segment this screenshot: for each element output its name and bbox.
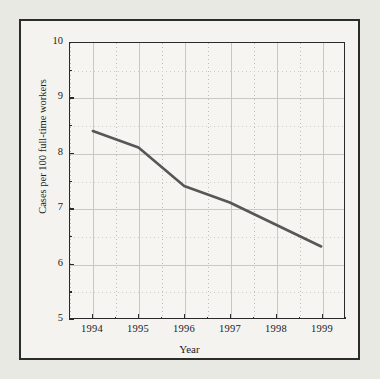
y-tick-major [69,42,74,43]
x-tick-label: 1998 [256,323,296,334]
series-polyline [93,131,321,247]
x-tick-major [184,314,185,319]
x-tick-major [276,314,277,319]
y-tick-major [69,264,74,265]
x-tick-minor [253,317,254,320]
y-tick-minor [69,70,72,71]
y-tick-minor [69,236,72,237]
x-tick-label: 1997 [210,323,250,334]
x-tick-label: 1996 [164,323,204,334]
x-tick-label: 1999 [302,323,342,334]
y-tick-minor [69,125,72,126]
x-axis-title: Year [21,343,358,355]
y-tick-label: 6 [39,257,63,268]
plot-area [69,42,345,319]
y-tick-minor [69,181,72,182]
y-tick-label: 5 [39,312,63,323]
x-tick-label: 1995 [118,323,158,334]
chart-figure: 199419951996199719981999 5678910 Year Ca… [19,19,360,360]
x-tick-minor [115,317,116,320]
y-tick-major [69,208,74,209]
x-tick-minor [299,317,300,320]
line-series [70,43,344,318]
x-tick-minor [345,317,346,320]
y-tick-major [69,153,74,154]
x-tick-major [322,314,323,319]
y-tick-major [69,319,74,320]
y-axis-title: Cases per 100 full-time workers [37,47,48,247]
x-tick-major [92,314,93,319]
x-tick-minor [207,317,208,320]
y-tick-major [69,97,74,98]
x-tick-minor [161,317,162,320]
y-tick-label: 10 [39,35,63,46]
x-tick-major [230,314,231,319]
x-tick-major [138,314,139,319]
y-tick-minor [69,291,72,292]
x-tick-label: 1994 [72,323,112,334]
